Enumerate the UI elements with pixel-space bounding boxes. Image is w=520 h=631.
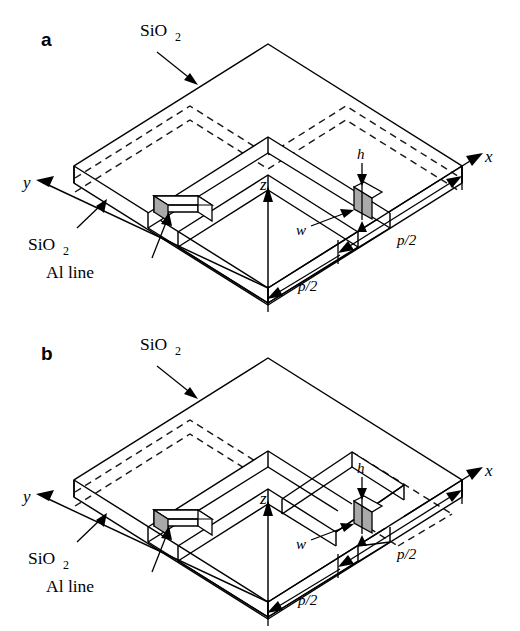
sio2-top-subscript-b: 2: [175, 344, 181, 358]
al-line-label-a: Al line: [46, 262, 94, 282]
x-axis-arrowhead-a: [466, 153, 483, 166]
x-axis-arrowhead-b: [466, 467, 483, 480]
panel-b: b SiO 2 SiO 2 Al line y x z h w p/2 p/2: [0, 314, 520, 629]
y-axis-arrowhead-a: [36, 176, 54, 187]
p2-right-label-a: p/2: [396, 232, 417, 248]
p2-front-label-a: p/2: [297, 278, 318, 294]
sio2-side-label-a: SiO: [28, 234, 55, 254]
panel-label-b: b: [41, 343, 53, 364]
y-axis-arrowhead-b: [36, 490, 54, 501]
sio2-top-subscript-a: 2: [175, 30, 181, 44]
sio2-top-leader-a: [157, 52, 192, 80]
w-label-a: w: [296, 222, 306, 238]
z-axis-label-a: z: [259, 175, 267, 194]
sio2-side-subscript-a: 2: [63, 244, 69, 258]
x-axis-label-a: x: [484, 147, 493, 166]
sio2-top-label-a: SiO: [140, 20, 167, 40]
h-label-a: h: [357, 146, 365, 162]
p2-front-label-b: p/2: [297, 592, 318, 608]
sio2-side-label-b: SiO: [28, 548, 55, 568]
al-line-label-b: Al line: [46, 576, 94, 596]
sio2-top-label-b: SiO: [140, 334, 167, 354]
h-label-b: h: [357, 460, 365, 476]
y-axis-label-a: y: [21, 173, 31, 192]
p2-right-label-b: p/2: [396, 546, 417, 562]
sio2-side-subscript-b: 2: [63, 558, 69, 572]
w-label-b: w: [296, 536, 306, 552]
y-axis-label-b: y: [21, 487, 31, 506]
sio2-top-leader-b: [157, 366, 192, 394]
panel-a-drawing: a SiO 2 SiO 2 Al line y x z h w p/2 p/2: [0, 0, 520, 315]
figure-root: a SiO 2 SiO 2 Al line y x z h w p/2 p/2: [0, 0, 520, 631]
z-axis-label-b: z: [259, 489, 267, 508]
panel-a: a SiO 2 SiO 2 Al line y x z h w p/2 p/2: [0, 0, 520, 315]
panel-b-drawing: b SiO 2 SiO 2 Al line y x z h w p/2 p/2: [0, 314, 520, 631]
x-axis-label-b: x: [484, 461, 493, 480]
panel-label-a: a: [41, 29, 52, 50]
